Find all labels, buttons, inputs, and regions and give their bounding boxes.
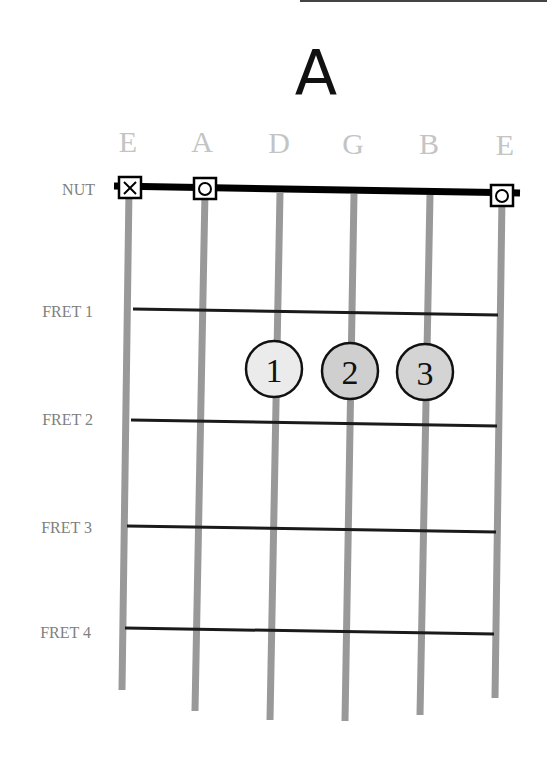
fret-wire-2: [131, 420, 497, 426]
finger-number: 2: [342, 354, 359, 391]
string-label-d: D: [268, 126, 290, 159]
muted-marker-low-e: [119, 177, 141, 198]
fret-label-1: FRET 1: [42, 303, 93, 320]
string-label-a: A: [191, 125, 213, 158]
finger-1-dot: 1: [246, 341, 302, 397]
fret-label-4: FRET 4: [40, 624, 91, 641]
string-g: [345, 194, 354, 721]
fret-wire-3: [127, 526, 496, 532]
chord-diagram: A E A D G B E NUT FRET 1 FRET 2 FRET 3 F…: [0, 0, 547, 763]
chord-title: A: [295, 37, 337, 110]
string-label-high-e: E: [496, 128, 514, 161]
string-labels: E A D G B E: [119, 125, 514, 161]
string-d: [270, 193, 280, 720]
finger-3-dot: 3: [397, 344, 453, 400]
string-label-low-e: E: [119, 125, 137, 158]
string-a: [195, 192, 205, 711]
nut-bar: [114, 186, 520, 193]
row-labels: NUT FRET 1 FRET 2 FRET 3 FRET 4: [40, 181, 95, 641]
nut-label: NUT: [62, 181, 95, 198]
string-label-g: G: [342, 127, 364, 160]
fret-wire-1: [133, 309, 498, 315]
string-b: [420, 195, 430, 715]
finger-positions: 1 2 3: [246, 341, 453, 400]
finger-number: 3: [417, 355, 434, 392]
fret-label-3: FRET 3: [41, 519, 92, 536]
strings: [122, 190, 502, 721]
string-label-b: B: [419, 127, 439, 160]
string-high-e: [495, 197, 502, 698]
fret-wire-4: [125, 628, 494, 634]
finger-number: 1: [266, 352, 283, 389]
open-marker-high-e: [491, 185, 513, 206]
fret-label-2: FRET 2: [42, 411, 93, 428]
open-marker-a: [194, 178, 216, 199]
string-low-e: [122, 190, 129, 690]
finger-2-dot: 2: [322, 343, 378, 399]
